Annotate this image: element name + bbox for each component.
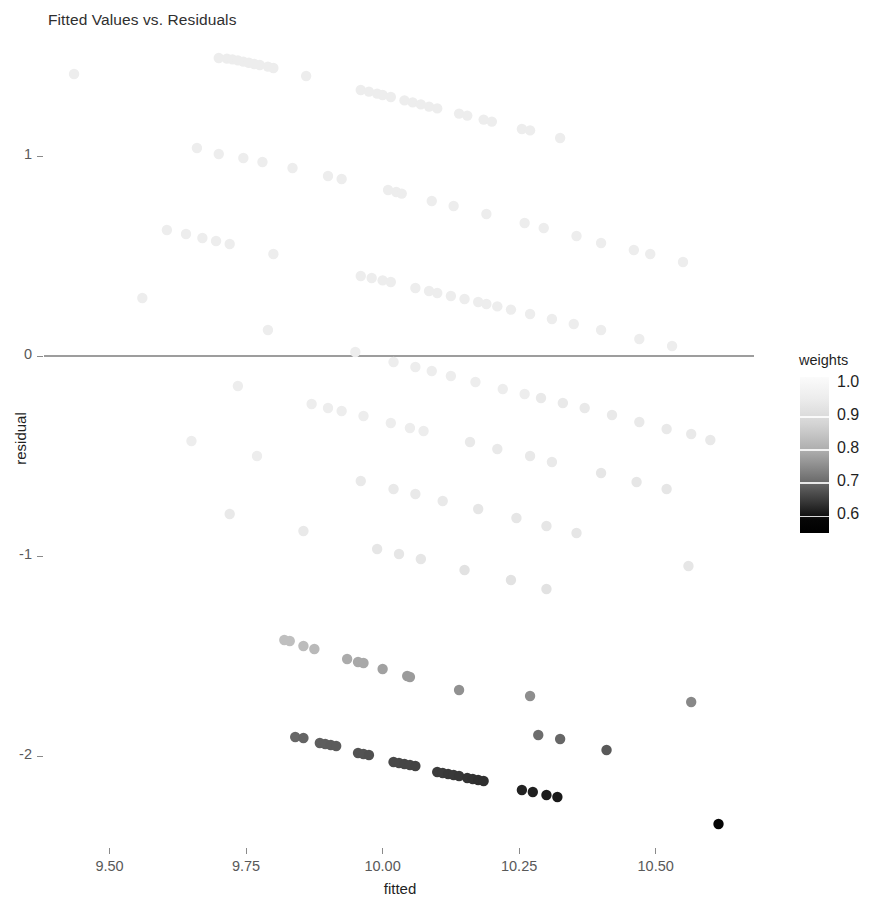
y-tick-label: -1 xyxy=(0,546,32,562)
data-point xyxy=(465,437,475,447)
data-point xyxy=(607,410,617,420)
data-point xyxy=(683,561,693,571)
data-point xyxy=(511,513,521,523)
legend-tick-mark xyxy=(800,482,829,484)
data-point xyxy=(601,745,611,755)
data-point xyxy=(506,304,516,314)
x-tick-mark xyxy=(246,848,247,854)
data-point xyxy=(263,325,273,335)
legend-tick-mark xyxy=(800,449,829,451)
data-point xyxy=(547,314,557,324)
data-point xyxy=(661,424,671,434)
legend-tick-mark xyxy=(800,416,829,418)
data-point xyxy=(519,218,529,228)
data-point xyxy=(405,672,415,682)
data-point xyxy=(192,143,202,153)
data-point xyxy=(427,366,437,376)
data-point xyxy=(558,398,568,408)
data-point xyxy=(287,163,297,173)
data-point xyxy=(528,787,538,797)
data-point xyxy=(350,347,360,357)
data-point xyxy=(162,225,172,235)
data-point xyxy=(388,357,398,367)
data-point xyxy=(446,371,456,381)
x-tick-mark xyxy=(382,848,383,854)
legend-label: 1.0 xyxy=(837,373,859,391)
y-tick-mark xyxy=(37,756,43,757)
data-point xyxy=(536,393,546,403)
data-point xyxy=(519,389,529,399)
data-point xyxy=(233,381,243,391)
data-point xyxy=(342,654,352,664)
y-tick-label: 1 xyxy=(0,146,32,162)
data-point xyxy=(596,468,606,478)
data-point xyxy=(69,69,79,79)
legend-colorbar xyxy=(800,377,829,533)
legend-label: 0.6 xyxy=(837,505,859,523)
y-tick-label: 0 xyxy=(0,346,32,362)
x-tick-label: 10.25 xyxy=(479,858,559,874)
y-axis-title: residual xyxy=(12,389,29,489)
data-point xyxy=(678,257,688,267)
data-point xyxy=(356,476,366,486)
data-point xyxy=(555,734,565,744)
data-point xyxy=(309,644,319,654)
x-tick-label: 9.75 xyxy=(206,858,286,874)
data-point xyxy=(481,209,491,219)
data-point xyxy=(298,733,308,743)
data-point xyxy=(211,236,221,246)
data-point xyxy=(492,444,502,454)
data-point xyxy=(323,171,333,181)
data-point xyxy=(629,245,639,255)
data-point xyxy=(634,417,644,427)
x-tick-mark xyxy=(655,848,656,854)
data-point xyxy=(525,691,535,701)
data-point xyxy=(306,399,316,409)
data-point xyxy=(386,92,396,102)
data-point xyxy=(366,273,376,283)
data-point xyxy=(298,526,308,536)
data-point xyxy=(197,233,207,243)
data-point xyxy=(394,549,404,559)
x-axis-title: fitted xyxy=(0,880,800,897)
x-tick-mark xyxy=(109,848,110,854)
data-point xyxy=(405,423,415,433)
data-point xyxy=(386,418,396,428)
data-point xyxy=(541,521,551,531)
data-point xyxy=(268,249,278,259)
x-tick-mark xyxy=(519,848,520,854)
data-point xyxy=(492,301,502,311)
data-point xyxy=(377,664,387,674)
data-point xyxy=(552,792,562,802)
data-point xyxy=(386,277,396,287)
data-point xyxy=(214,149,224,159)
data-point xyxy=(533,730,543,740)
data-point xyxy=(487,116,497,126)
data-point xyxy=(470,377,480,387)
data-point xyxy=(224,239,234,249)
data-point xyxy=(525,125,535,135)
data-point xyxy=(418,426,428,436)
page-title: Fitted Values vs. Residuals xyxy=(48,11,237,29)
data-point xyxy=(410,489,420,499)
data-point xyxy=(478,776,488,786)
data-point xyxy=(410,761,420,771)
data-point xyxy=(525,451,535,461)
data-point xyxy=(298,641,308,651)
data-point xyxy=(459,565,469,575)
data-point xyxy=(364,750,374,760)
data-point xyxy=(446,291,456,301)
data-point xyxy=(541,790,551,800)
data-point xyxy=(186,436,196,446)
data-point xyxy=(137,293,147,303)
y-tick-mark xyxy=(37,356,43,357)
data-point xyxy=(427,196,437,206)
data-point xyxy=(416,554,426,564)
data-point xyxy=(645,249,655,259)
data-point xyxy=(667,341,677,351)
data-point xyxy=(432,288,442,298)
legend-label: 0.7 xyxy=(837,472,859,490)
y-tick-mark xyxy=(37,556,43,557)
legend-title: weights xyxy=(799,352,848,368)
data-point xyxy=(498,384,508,394)
